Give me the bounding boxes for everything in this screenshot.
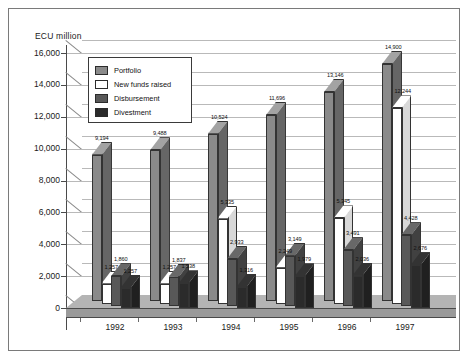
bar-face (150, 150, 160, 301)
bar-face (334, 218, 344, 303)
bar-face (227, 259, 237, 306)
y-tick-mark (61, 53, 67, 54)
bar-face (411, 265, 421, 308)
bar-face (208, 134, 218, 302)
gridline-riser (65, 168, 82, 182)
y-tick-mark (61, 149, 67, 150)
bar-face (266, 115, 276, 301)
y-tick-label: 10,000 (20, 143, 60, 153)
y-tick-mark (61, 181, 67, 182)
bar-value-label: 1,837 (172, 257, 186, 263)
gridline-back (82, 40, 456, 41)
y-tick-label: 8,000 (20, 175, 60, 185)
bar-value-label: 3,149 (288, 236, 302, 242)
x-tick-label: 1992 (86, 322, 144, 332)
y-tick-mark (61, 244, 67, 245)
bar-face (353, 276, 363, 308)
bar-value-label: 1,257 (105, 264, 119, 270)
bar-value-label: 14,900 (385, 44, 402, 50)
bar-1995-disbursement (285, 256, 295, 306)
bar-1995-portfolio (266, 115, 276, 301)
x-tick-label: 1997 (376, 322, 434, 332)
legend-label: Disbursement (114, 94, 160, 103)
legend-label: Portfolio (114, 66, 141, 75)
bar-value-label: 4,428 (404, 215, 418, 221)
bar-value-label: 9,194 (95, 135, 109, 141)
bar-1997-divestment (411, 265, 421, 308)
y-tick-label: 16,000 (20, 48, 60, 58)
bar-1995-divestment (295, 276, 305, 308)
bar-value-label: 2,249 (279, 248, 293, 254)
bar-value-label: 11,696 (269, 95, 285, 101)
gridline-riser (65, 263, 82, 277)
legend-label: New funds raised (114, 80, 171, 89)
legend-swatch (95, 66, 108, 75)
bar-face (169, 277, 179, 306)
bar-1994-divestment (237, 287, 247, 308)
bar-1992-portfolio (92, 155, 102, 302)
bar-1992-new-funds-raised (102, 284, 112, 304)
bar-1993-new-funds-raised (160, 284, 170, 304)
y-tick-mark (61, 276, 67, 277)
bar-1994-new-funds-raised (218, 219, 228, 304)
y-tick-mark (61, 117, 67, 118)
bar-face (324, 92, 334, 302)
chart-legend: PortfolioNew funds raisedDisbursementDiv… (88, 57, 192, 123)
bar-face (285, 256, 295, 306)
y-tick-label: 12,000 (20, 111, 60, 121)
legend-swatch (95, 94, 108, 103)
bar-face (401, 235, 411, 306)
legend-label: Divestment (114, 108, 151, 117)
legend-item-portfolio[interactable]: Portfolio (95, 63, 185, 77)
x-tick-label: 1995 (260, 322, 318, 332)
bar-face (392, 108, 402, 303)
y-axis-line (66, 45, 67, 330)
bar-value-label: 2,933 (230, 239, 244, 245)
bar-face (218, 219, 228, 304)
bar-1996-new-funds-raised (334, 218, 344, 303)
bar-value-label: 5,345 (337, 198, 351, 204)
gridline-riser (65, 136, 82, 150)
bar-1993-portfolio (150, 150, 160, 301)
bar-1997-new-funds-raised (392, 108, 402, 303)
bar-1995-new-funds-raised (276, 268, 286, 304)
bar-1992-disbursement (111, 276, 121, 306)
bar-face (179, 283, 189, 308)
bar-face (382, 64, 392, 301)
bar-value-label: 1,257 (124, 268, 138, 274)
bar-value-label: 9,488 (153, 130, 167, 136)
y-tick-label: 2,000 (20, 271, 60, 281)
bar-1992-divestment (121, 288, 131, 308)
bar-value-label: 2,036 (356, 256, 370, 262)
legend-swatch (95, 108, 108, 117)
bar-value-label: 1,860 (114, 256, 128, 262)
legend-item-disbursement[interactable]: Disbursement (95, 91, 185, 105)
bar-1996-divestment (353, 276, 363, 308)
bar-face (121, 288, 131, 308)
y-tick-mark (61, 85, 67, 86)
bar-value-label: 3,491 (346, 230, 360, 236)
gridline-riser (65, 72, 82, 86)
bar-face (102, 284, 112, 304)
bar-1993-divestment (179, 283, 189, 308)
chart-page: ECU million 02,0004,0006,0008,00010,0001… (0, 0, 470, 361)
y-tick-label: 6,000 (20, 207, 60, 217)
gridline-riser (65, 40, 82, 54)
x-tick-label: 1996 (318, 322, 376, 332)
y-tick-mark (61, 212, 67, 213)
bar-value-label: 1,538 (182, 263, 196, 269)
bar-1997-portfolio (382, 64, 392, 301)
bar-value-label: 12,244 (395, 88, 412, 94)
x-tick-label: 1993 (144, 322, 202, 332)
bar-1994-portfolio (208, 134, 218, 302)
bar-1994-disbursement (227, 259, 237, 306)
bar-value-label: 2,676 (414, 245, 428, 251)
bar-1997-disbursement (401, 235, 411, 306)
legend-item-new-funds-raised[interactable]: New funds raised (95, 77, 185, 91)
bar-face (92, 155, 102, 302)
gridline-riser (65, 231, 82, 245)
legend-item-divestment[interactable]: Divestment (95, 105, 185, 119)
y-tick-label: 4,000 (20, 239, 60, 249)
bar-face (295, 276, 305, 308)
bar-face (276, 268, 286, 304)
